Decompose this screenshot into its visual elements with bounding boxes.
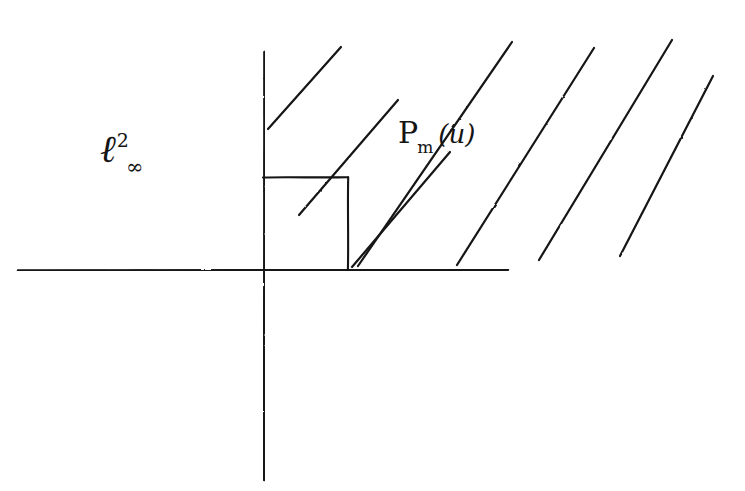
hatch-line-6 xyxy=(539,40,672,260)
figure-canvas: ℓ2∞ Pm(u) xyxy=(0,0,745,491)
label-operator-argument: (u) xyxy=(434,119,475,149)
hatch-line-1 xyxy=(268,47,341,129)
hatching-lines xyxy=(268,40,713,267)
label-ell-subscript: ∞ xyxy=(126,155,144,179)
vertical-axis xyxy=(264,52,265,480)
hand-drawn-diagram xyxy=(0,0,745,491)
hatch-line-3 xyxy=(352,152,450,267)
label-ell-infinity-squared: ℓ2∞ xyxy=(100,130,145,173)
label-ell-superscript: 2 xyxy=(117,129,129,151)
label-operator-subscript: m xyxy=(417,137,433,157)
hatch-line-5 xyxy=(457,48,594,265)
unit-ball-square xyxy=(263,177,348,270)
horizontal-axis xyxy=(18,270,508,271)
label-projection-operator: Pm(u) xyxy=(398,118,475,152)
label-operator-base: P xyxy=(398,115,418,150)
hatch-line-4 xyxy=(358,42,512,266)
label-ell-base: ℓ xyxy=(100,127,116,171)
